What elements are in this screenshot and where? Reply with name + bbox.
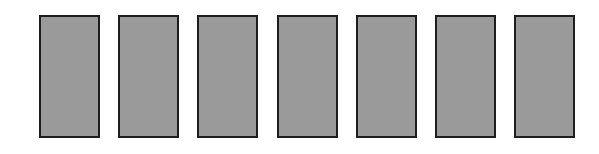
domino-5 — [356, 15, 417, 138]
domino-6 — [435, 15, 496, 138]
domino-top-half — [516, 17, 573, 77]
domino-top-half — [199, 17, 256, 77]
domino-4 — [277, 15, 338, 138]
domino-1 — [39, 15, 100, 138]
domino-3 — [197, 15, 258, 138]
domino-bottom-half — [41, 75, 98, 136]
domino-row — [0, 0, 599, 154]
domino-bottom-half — [199, 75, 256, 136]
domino-bottom-half — [358, 75, 415, 136]
domino-7 — [514, 15, 575, 138]
domino-top-half — [437, 17, 494, 77]
domino-top-half — [120, 17, 177, 77]
domino-bottom-half — [279, 75, 336, 136]
domino-bottom-half — [120, 75, 177, 136]
domino-top-half — [279, 17, 336, 77]
domino-2 — [118, 15, 179, 138]
domino-top-half — [41, 17, 98, 77]
domino-bottom-half — [437, 75, 494, 136]
domino-top-half — [358, 17, 415, 77]
domino-bottom-half — [516, 75, 573, 136]
